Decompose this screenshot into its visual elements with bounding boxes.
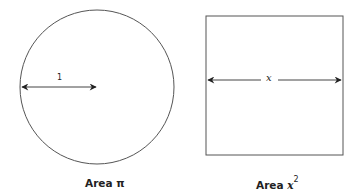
- square-caption-prefix: Area: [256, 179, 287, 191]
- square-shape: [206, 16, 343, 155]
- circle-caption: Area π: [85, 177, 124, 189]
- square-caption: Area x2: [256, 177, 299, 191]
- circle-caption-value: π: [116, 177, 124, 189]
- radius-label: 1: [57, 73, 62, 82]
- circle-caption-prefix: Area: [85, 177, 116, 189]
- diagram-canvas: [0, 0, 363, 196]
- side-label: x: [266, 72, 272, 83]
- square-caption-exponent: 2: [293, 175, 298, 184]
